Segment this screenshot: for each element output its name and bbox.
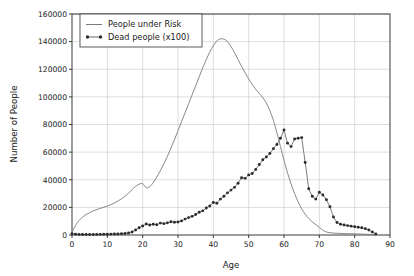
data-point-marker — [109, 233, 112, 236]
chart-canvas: 0200004000060000800001000001200001400001… — [0, 0, 414, 276]
data-point-marker — [113, 233, 116, 236]
data-point-marker — [307, 187, 310, 190]
data-point-marker — [120, 232, 123, 235]
data-point-marker — [102, 233, 105, 236]
data-point-marker — [364, 227, 367, 230]
data-point-marker — [325, 198, 328, 201]
data-point-marker — [230, 189, 233, 192]
legend-swatch-marker — [99, 35, 102, 38]
data-point-marker — [237, 182, 240, 185]
data-point-marker — [184, 218, 187, 221]
data-point-marker — [141, 225, 144, 228]
data-point-marker — [177, 221, 180, 224]
data-point-marker — [205, 207, 208, 210]
data-point-marker — [371, 231, 374, 234]
data-point-marker — [272, 147, 275, 150]
data-point-marker — [215, 202, 218, 205]
data-point-marker — [286, 142, 289, 145]
data-point-marker — [346, 224, 349, 227]
y-tick-label: 20000 — [43, 203, 67, 212]
data-point-marker — [116, 232, 119, 235]
series-line-dead-people — [72, 130, 376, 234]
data-point-marker — [304, 161, 307, 164]
data-point-marker — [360, 226, 363, 229]
data-point-marker — [134, 229, 137, 232]
chart-figure: 0200004000060000800001000001200001400001… — [0, 0, 414, 276]
data-point-marker — [300, 136, 303, 139]
data-point-marker — [201, 209, 204, 212]
data-point-marker — [233, 186, 236, 189]
data-point-marker — [74, 233, 77, 236]
data-point-marker — [339, 223, 342, 226]
x-tick-label: 40 — [208, 240, 218, 249]
legend-label: People under Risk — [108, 19, 182, 29]
data-point-marker — [187, 216, 190, 219]
y-tick-label: 40000 — [43, 176, 67, 185]
data-point-marker — [138, 226, 141, 229]
data-point-marker — [226, 191, 229, 194]
x-tick-label: 90 — [385, 240, 395, 249]
data-point-marker — [290, 145, 293, 148]
data-point-marker — [124, 232, 127, 235]
data-point-marker — [159, 222, 162, 225]
data-point-marker — [254, 168, 257, 171]
data-point-marker — [357, 226, 360, 229]
data-point-marker — [191, 215, 194, 218]
data-point-marker — [328, 205, 331, 208]
data-point-marker — [92, 233, 95, 236]
data-point-marker — [95, 233, 98, 236]
data-point-marker — [88, 233, 91, 236]
data-point-marker — [251, 172, 254, 175]
x-tick-label: 60 — [279, 240, 289, 249]
data-point-marker — [166, 221, 169, 224]
y-tick-label: 160000 — [38, 10, 67, 19]
x-tick-label: 30 — [173, 240, 183, 249]
x-tick-label: 10 — [102, 240, 112, 249]
data-point-marker — [198, 211, 201, 214]
data-point-marker — [208, 205, 211, 208]
data-point-marker — [148, 224, 151, 227]
data-point-marker — [81, 233, 84, 236]
data-point-marker — [194, 213, 197, 216]
y-tick-label: 0 — [62, 231, 67, 240]
data-point-marker — [247, 173, 250, 176]
chart-legend: People under RiskDead people (x100) — [80, 14, 202, 47]
data-point-marker — [99, 233, 102, 236]
data-point-marker — [244, 177, 247, 180]
data-point-marker — [297, 137, 300, 140]
data-point-marker — [145, 223, 148, 226]
data-point-marker — [152, 223, 155, 226]
data-point-marker — [219, 198, 222, 201]
data-point-marker — [106, 233, 109, 236]
data-point-marker — [265, 156, 268, 159]
x-tick-label: 50 — [244, 240, 254, 249]
x-axis-title: Age — [223, 260, 240, 270]
x-tick-label: 70 — [314, 240, 324, 249]
data-point-marker — [180, 219, 183, 222]
data-point-marker — [314, 198, 317, 201]
data-point-marker — [212, 201, 215, 204]
x-tick-label: 0 — [70, 240, 75, 249]
data-point-marker — [293, 138, 296, 141]
data-point-marker — [127, 232, 130, 235]
data-point-marker — [162, 222, 165, 225]
data-point-marker — [343, 224, 346, 227]
y-axis-title: Number of People — [9, 86, 19, 163]
data-point-marker — [311, 195, 314, 198]
y-tick-label: 60000 — [43, 148, 67, 157]
legend-swatch-marker — [86, 35, 89, 38]
data-point-marker — [374, 232, 377, 235]
data-point-marker — [336, 221, 339, 224]
y-tick-label: 100000 — [38, 93, 67, 102]
data-point-marker — [131, 231, 134, 234]
y-tick-label: 120000 — [38, 65, 67, 74]
legend-label: Dead people (x100) — [108, 32, 189, 42]
data-point-marker — [222, 195, 225, 198]
data-point-marker — [78, 233, 81, 236]
data-point-marker — [240, 176, 243, 179]
data-point-marker — [155, 223, 158, 226]
x-tick-label: 20 — [138, 240, 148, 249]
data-series — [71, 39, 378, 236]
data-point-marker — [169, 220, 172, 223]
data-point-marker — [332, 216, 335, 219]
